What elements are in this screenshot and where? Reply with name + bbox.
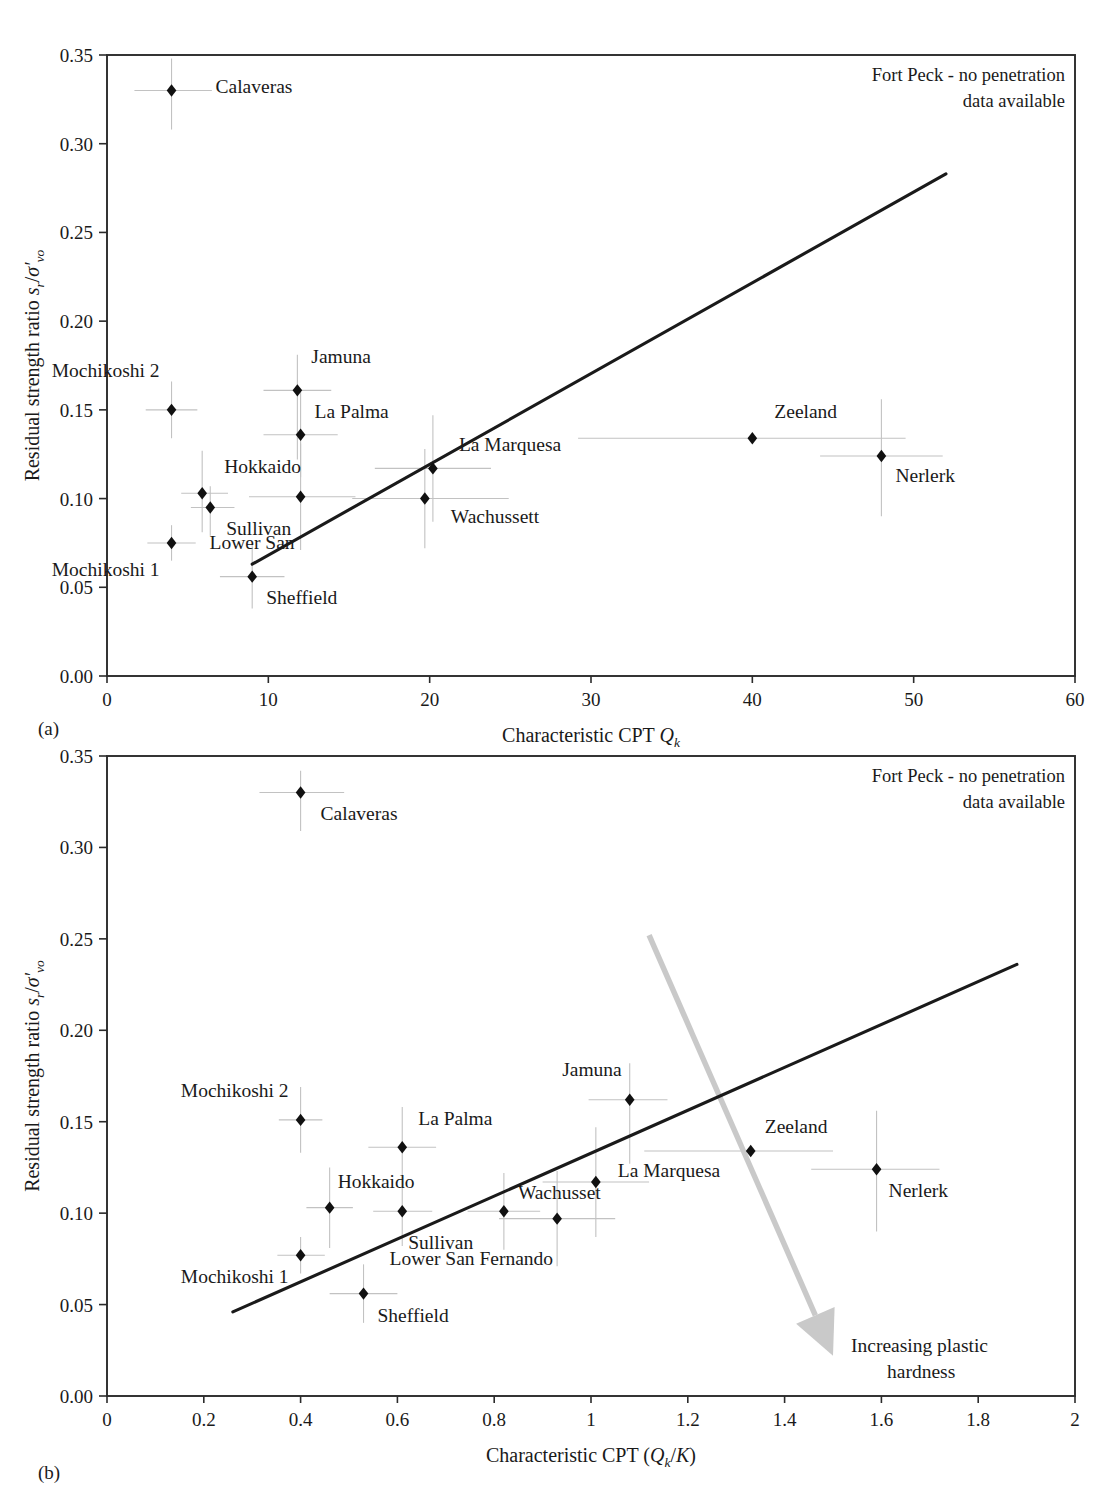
y-tick-label: 0.15 (60, 400, 93, 421)
y-tick-label: 0.30 (60, 837, 93, 858)
x-tick-label: 1 (586, 1409, 596, 1430)
data-point-marker[interactable] (167, 404, 177, 416)
x-tick-label: 10 (259, 689, 278, 710)
data-point-label: Jamuna (311, 346, 371, 367)
data-point-label: La Palma (418, 1108, 493, 1129)
x-tick-label: 50 (904, 689, 923, 710)
data-point-label: Mochikoshi 1 (181, 1266, 289, 1287)
data-point-marker[interactable] (877, 450, 887, 462)
chart-panel-a: 01020304050600.000.050.100.150.200.250.3… (0, 0, 1101, 755)
data-point-marker[interactable] (197, 487, 207, 499)
x-tick-label: 1.8 (966, 1409, 990, 1430)
data-point-label: Sheffield (378, 1305, 449, 1326)
data-point-label: Wachusset (518, 1182, 601, 1203)
x-tick-label: 40 (743, 689, 762, 710)
data-point-marker[interactable] (247, 570, 257, 582)
chart-panel-b: 00.20.40.60.811.21.41.61.820.000.050.100… (0, 720, 1101, 1509)
data-point-marker[interactable] (296, 786, 306, 798)
y-tick-label: 0.35 (60, 746, 93, 767)
y-axis-title: Residual strength ratio sr/σ′vo (21, 249, 47, 481)
data-point-label: Zeeland (774, 401, 837, 422)
y-tick-label: 0.35 (60, 45, 93, 66)
y-tick-label: 0.15 (60, 1112, 93, 1133)
data-point-label: Lower San (210, 532, 295, 553)
x-tick-label: 1.4 (773, 1409, 797, 1430)
data-point-label: Mochikoshi 1 (52, 559, 160, 580)
data-point-label: Nerlerk (895, 465, 955, 486)
data-point-marker[interactable] (359, 1287, 369, 1299)
fort-peck-annotation: Fort Peck - no penetrationdata available (872, 766, 1065, 812)
data-point-label: Nerlerk (889, 1180, 949, 1201)
data-point-label: Mochikoshi 2 (52, 360, 160, 381)
x-tick-label: 60 (1066, 689, 1085, 710)
panel-label-b: (b) (38, 1462, 60, 1484)
data-point-label: Jamuna (562, 1059, 622, 1080)
data-point-marker[interactable] (296, 491, 306, 503)
y-tick-label: 0.30 (60, 134, 93, 155)
y-tick-label: 0.05 (60, 1295, 93, 1316)
y-tick-label: 0.25 (60, 222, 93, 243)
x-tick-label: 0 (102, 689, 112, 710)
data-point-label: La Marquesa (459, 434, 562, 455)
scatter-plot-a: 01020304050600.000.050.100.150.200.250.3… (0, 0, 1101, 755)
data-point-marker[interactable] (325, 1201, 335, 1213)
y-tick-label: 0.05 (60, 577, 93, 598)
y-tick-label: 0.10 (60, 489, 93, 510)
x-tick-label: 2 (1070, 1409, 1080, 1430)
x-tick-label: 1.2 (676, 1409, 700, 1430)
data-point-label: Zeeland (765, 1116, 828, 1137)
data-point-marker[interactable] (397, 1141, 407, 1153)
data-point-label: La Marquesa (618, 1160, 721, 1181)
panel-label-a: (a) (38, 718, 59, 740)
y-tick-label: 0.20 (60, 311, 93, 332)
data-point-marker[interactable] (296, 1114, 306, 1126)
data-point-marker[interactable] (167, 537, 177, 549)
x-axis-title: Characteristic CPT (Qk/K) (486, 1444, 696, 1470)
data-point-marker[interactable] (499, 1205, 509, 1217)
data-point-label: Sheffield (266, 587, 337, 608)
y-axis-title: Residual strength ratio sr/σ′vo (21, 960, 47, 1192)
x-tick-label: 0.2 (192, 1409, 216, 1430)
y-tick-label: 0.00 (60, 666, 93, 687)
x-tick-label: 30 (582, 689, 601, 710)
trend-line (252, 174, 946, 564)
data-point-marker[interactable] (552, 1212, 562, 1224)
x-tick-label: 1.6 (870, 1409, 894, 1430)
y-tick-label: 0.25 (60, 929, 93, 950)
trend-line (233, 964, 1017, 1311)
data-point-marker[interactable] (420, 492, 430, 504)
data-point-marker[interactable] (747, 432, 757, 444)
x-tick-label: 0.8 (482, 1409, 506, 1430)
x-tick-label: 20 (420, 689, 439, 710)
x-tick-label: 0.4 (289, 1409, 313, 1430)
figure-root: 01020304050600.000.050.100.150.200.250.3… (0, 0, 1101, 1509)
y-tick-label: 0.10 (60, 1203, 93, 1224)
data-point-label: Calaveras (216, 76, 293, 97)
data-point-marker[interactable] (167, 84, 177, 96)
data-point-label: Hokkaido (224, 456, 301, 477)
x-tick-label: 0.6 (386, 1409, 410, 1430)
data-point-label: Mochikoshi 2 (181, 1080, 289, 1101)
data-point-marker[interactable] (205, 501, 215, 513)
data-point-marker[interactable] (872, 1163, 882, 1175)
data-point-label: Wachussett (451, 506, 540, 527)
data-point-marker[interactable] (397, 1205, 407, 1217)
svg-text:Residual strength ratio sr/σ′v: Residual strength ratio sr/σ′vo (21, 249, 47, 481)
data-point-label: Calaveras (321, 803, 398, 824)
y-tick-label: 0.00 (60, 1386, 93, 1407)
y-tick-label: 0.20 (60, 1020, 93, 1041)
data-point-label: Lower San Fernando (390, 1248, 554, 1269)
x-tick-label: 0 (102, 1409, 112, 1430)
arrow-label: Increasing plastichardness (851, 1335, 988, 1382)
data-point-marker[interactable] (296, 1249, 306, 1261)
data-point-marker[interactable] (625, 1094, 635, 1106)
data-point-label: Hokkaido (338, 1171, 415, 1192)
data-point-label: La Palma (315, 401, 390, 422)
svg-text:Residual strength ratio sr/σ′v: Residual strength ratio sr/σ′vo (21, 960, 47, 1192)
scatter-plot-b: 00.20.40.60.811.21.41.61.820.000.050.100… (0, 720, 1101, 1509)
increasing-hardness-arrow (649, 935, 835, 1356)
fort-peck-annotation: Fort Peck - no penetrationdata available (872, 65, 1065, 111)
error-bars (259, 771, 939, 1323)
